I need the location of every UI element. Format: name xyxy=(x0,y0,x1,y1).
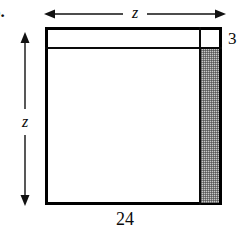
arrowhead-up-icon xyxy=(21,32,30,43)
problem-number: 5. xyxy=(0,2,5,22)
left-dimension-arrow: z xyxy=(16,32,34,206)
vertical-divider-line xyxy=(199,27,201,205)
left-dimension-label: z xyxy=(22,109,28,135)
left-dimension-label-wrap: z xyxy=(16,109,34,135)
horizontal-divider-line xyxy=(45,47,222,49)
top-dimension-label-wrap: z xyxy=(44,4,226,22)
shaded-strip-region xyxy=(201,49,219,203)
top-dimension-arrow: z xyxy=(44,5,226,23)
outer-rectangle xyxy=(45,27,222,205)
top-dimension-label: z xyxy=(123,4,147,21)
geometry-figure: 5. z z 3 24 xyxy=(0,0,247,233)
bottom-side-label: 24 xyxy=(45,208,205,230)
right-strip-width-label: 3 xyxy=(228,29,237,49)
arrowhead-down-icon xyxy=(21,195,30,206)
